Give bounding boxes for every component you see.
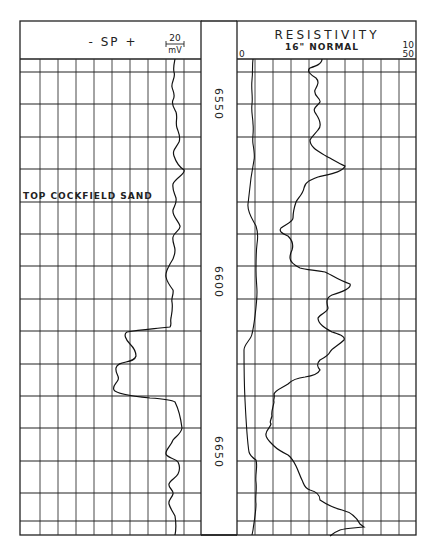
sp-scale-value: 20	[169, 33, 181, 43]
sp-hgrid	[20, 72, 201, 521]
res-scale-left: 0	[239, 49, 245, 59]
depth-label-6550: 6550	[212, 88, 225, 120]
sp-header-label: - SP +	[89, 35, 138, 49]
depth-label-6600: 6600	[212, 266, 225, 298]
resistivity-curve-50	[244, 59, 258, 535]
res-header-label: RESISTIVITY	[275, 28, 380, 42]
resistivity-track-frame	[237, 21, 416, 535]
res-hgrid	[237, 72, 416, 521]
top-cockfield-sand-label: TOP COCKFIELD SAND	[23, 191, 153, 201]
res-grid	[255, 59, 399, 535]
sp-scale-unit: mV	[168, 46, 182, 55]
depth-label-6650: 6650	[212, 436, 225, 468]
res-scale-right-bottom: 50	[403, 49, 415, 59]
well-log-chart: - SP + 20 mV RESISTIVITY 16" NORMAL 0 10…	[0, 0, 437, 553]
resistivity-curve-10	[266, 59, 364, 536]
res-subheader-label: 16" NORMAL	[285, 42, 359, 52]
sp-grid	[40, 59, 184, 535]
sp-curve	[113, 59, 184, 535]
